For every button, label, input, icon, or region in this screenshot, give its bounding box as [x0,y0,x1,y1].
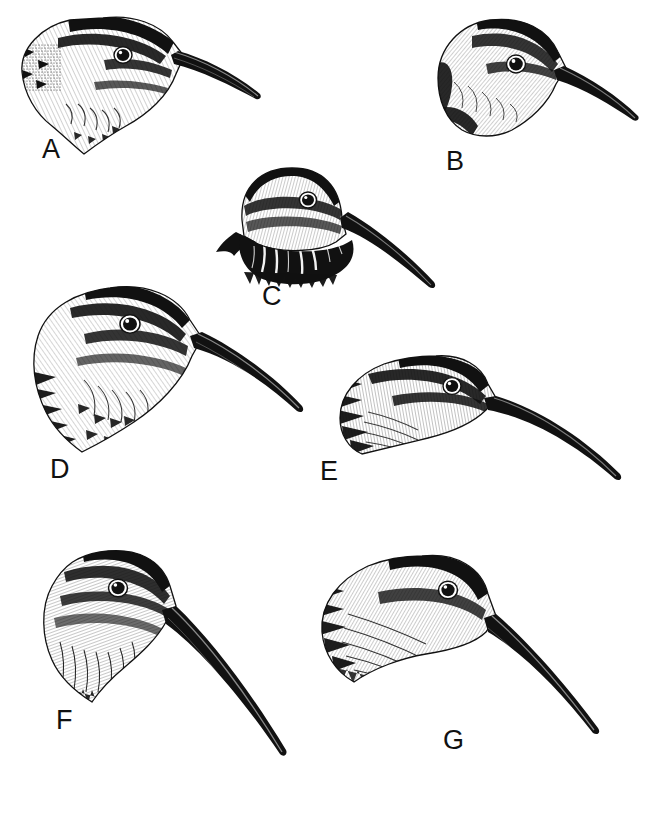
figure-g [302,548,652,798]
panel-label-f: F [56,707,73,734]
figure-d [24,276,324,476]
panel-label-d: D [50,456,70,483]
panel-label-e: E [320,458,339,485]
figure-f [30,544,320,794]
caption-fragment [0,811,657,817]
panel-label-g: G [443,727,465,754]
panel-label-a: A [42,136,61,163]
illustration-plate: A [0,0,657,817]
figure-e [328,352,648,502]
figure-b [424,12,654,157]
